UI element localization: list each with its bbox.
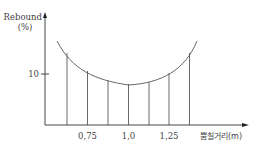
x-tick-label-2: 1,25 (160, 131, 179, 141)
x-axis-label: 뿜칠거리(m) (200, 132, 242, 141)
x-tick-label-0: 0,75 (78, 131, 97, 141)
x-axis-arrow-icon (242, 123, 249, 127)
drop-lines (67, 53, 190, 125)
y-tick-label: 10 (28, 69, 39, 79)
y-axis-unit: (%) (18, 22, 33, 32)
y-axis-label: Rebound (4, 12, 43, 22)
rebound-chart: 10 Rebound (%) 0,75 1,0 1,25 뿜칠거리(m) (0, 0, 257, 144)
rebound-curve (57, 41, 197, 85)
y-axis-arrow-icon (43, 12, 47, 18)
x-tick-label-1: 1,0 (122, 131, 136, 141)
